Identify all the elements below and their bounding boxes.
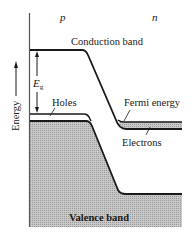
fermi-level-line [30,114,91,121]
band-diagram: p n Conduction band Eg Holes Fermi energ… [0,0,192,239]
conduction-band-label: Conduction band [71,36,144,47]
fermi-energy-label: Fermi energy [124,97,181,108]
valence-band-label: Valence band [69,212,129,223]
p-region-label: p [59,11,66,23]
energy-arrow-icon [14,61,18,96]
conduction-band-edge [30,50,182,129]
fermi-level-line-n [118,120,182,122]
band-gap-label: Eg [32,77,44,91]
electrons-label: Electrons [122,137,162,148]
energy-axis-label: Energy [10,100,21,131]
fermi-leader [124,110,130,121]
n-region-label: n [152,11,158,23]
holes-label: Holes [52,97,77,108]
holes-leader [50,108,55,116]
electrons-region [118,122,182,129]
